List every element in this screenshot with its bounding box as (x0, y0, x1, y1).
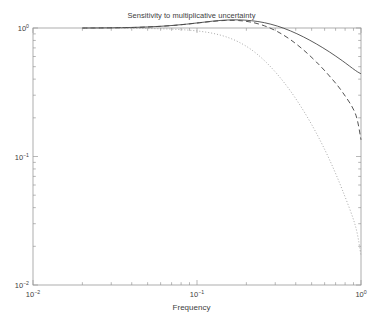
plot-box (33, 28, 361, 285)
tick-label: 10−1 (15, 152, 29, 162)
tick-label: 10−2 (15, 280, 29, 290)
tick-label: 100 (355, 289, 366, 299)
axis-frame (33, 28, 361, 285)
x-axis-label: Frequency (0, 303, 383, 312)
axis-ticks (33, 28, 361, 285)
axis-tick-labels: 10−210−110010010−110−2 (15, 23, 367, 299)
curve-dotted (82, 28, 361, 255)
tick-label: 100 (18, 23, 29, 33)
tick-label: 10−1 (190, 289, 204, 299)
data-curves (82, 20, 361, 256)
plot-area: 10−210−110010010−110−2 (0, 0, 383, 324)
figure-canvas: Sensitivity to multiplicative uncertaint… (0, 0, 383, 324)
tick-label: 10−2 (26, 289, 40, 299)
curve-dashed (82, 20, 361, 139)
